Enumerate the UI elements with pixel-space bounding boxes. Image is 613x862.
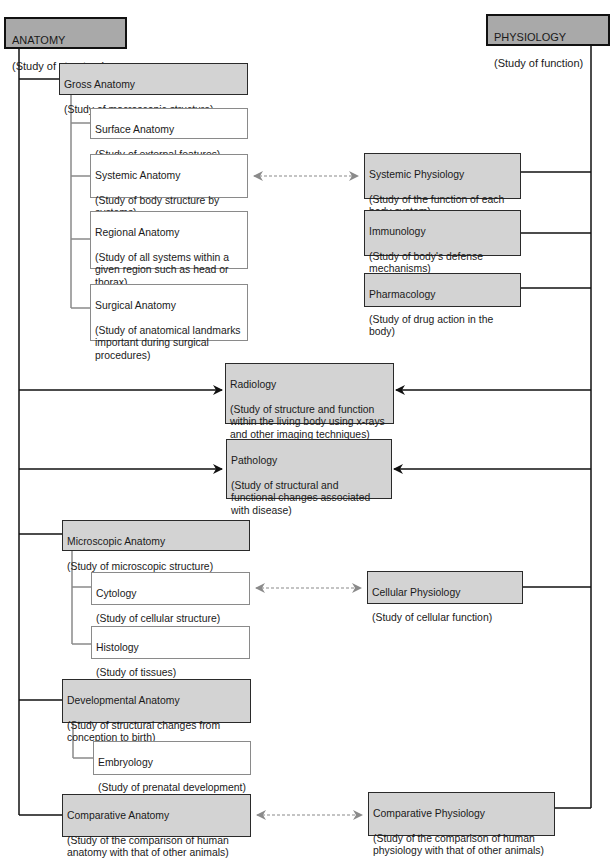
immunology-box: Immunology (Study of body's defense mech…	[364, 210, 521, 256]
microscopic-anatomy-box: Microscopic Anatomy (Study of microscopi…	[62, 520, 250, 551]
radiology-title: Radiology	[230, 379, 389, 392]
pharmacology-desc: (Study of drug action in the body)	[369, 314, 516, 339]
pharmacology-title: Pharmacology	[369, 289, 516, 302]
immunology-title: Immunology	[369, 226, 516, 239]
pharmacology-box: Pharmacology (Study of drug action in th…	[364, 273, 521, 307]
embryology-title: Embryology	[98, 757, 246, 770]
gross-anatomy-box: Gross Anatomy (Study of macroscopic stru…	[59, 63, 248, 95]
pathology-title: Pathology	[231, 455, 387, 468]
comparative-physiology-box: Comparative Physiology (Study of the com…	[368, 792, 555, 836]
histology-desc: (Study of tissues)	[96, 667, 245, 680]
surgical-anatomy-desc: (Study of anatomical landmarks important…	[95, 325, 243, 363]
comparative-physiology-title: Comparative Physiology	[373, 808, 550, 821]
pathology-desc: (Study of structural and functional chan…	[231, 480, 387, 518]
radiology-desc: (Study of structure and function within …	[230, 404, 389, 442]
systemic-physiology-title: Systemic Physiology	[369, 169, 516, 182]
regional-anatomy-title: Regional Anatomy	[95, 227, 243, 240]
comparative-anatomy-title: Comparative Anatomy	[67, 810, 246, 823]
comparative-physiology-desc: (Study of the comparison of human physio…	[373, 833, 550, 858]
cytology-box: Cytology (Study of cellular structure)	[91, 572, 250, 605]
embryology-desc: (Study of prenatal development)	[98, 782, 246, 795]
microscopic-anatomy-title: Microscopic Anatomy	[67, 536, 245, 549]
systemic-anatomy-title: Systemic Anatomy	[95, 170, 243, 183]
developmental-anatomy-box: Developmental Anatomy (Study of structur…	[62, 679, 251, 723]
histology-box: Histology (Study of tissues)	[91, 626, 250, 659]
cellular-physiology-box: Cellular Physiology (Study of cellular f…	[367, 571, 523, 604]
surgical-anatomy-title: Surgical Anatomy	[95, 300, 243, 313]
gross-anatomy-title: Gross Anatomy	[64, 79, 243, 92]
cellular-physiology-desc: (Study of cellular function)	[372, 612, 518, 625]
comparative-anatomy-box: Comparative Anatomy (Study of the compar…	[62, 794, 251, 837]
cytology-title: Cytology	[96, 588, 245, 601]
systemic-physiology-box: Systemic Physiology (Study of the functi…	[364, 153, 521, 199]
embryology-box: Embryology (Study of prenatal developmen…	[93, 741, 251, 775]
radiology-box: Radiology (Study of structure and functi…	[225, 363, 394, 424]
regional-anatomy-box: Regional Anatomy (Study of all systems w…	[90, 211, 248, 269]
cytology-desc: (Study of cellular structure)	[96, 613, 245, 626]
surgical-anatomy-box: Surgical Anatomy (Study of anatomical la…	[90, 284, 248, 341]
physiology-box: PHYSIOLOGY (Study of function)	[486, 14, 610, 46]
physiology-title: PHYSIOLOGY	[494, 31, 602, 44]
anatomy-box: ANATOMY (Study of structure)	[4, 17, 127, 49]
surface-anatomy-box: Surface Anatomy (Study of external featu…	[90, 108, 248, 139]
physiology-desc: (Study of function)	[494, 57, 602, 70]
pathology-box: Pathology (Study of structural and funct…	[226, 439, 392, 499]
developmental-anatomy-title: Developmental Anatomy	[67, 695, 246, 708]
surface-anatomy-title: Surface Anatomy	[95, 124, 243, 137]
cellular-physiology-title: Cellular Physiology	[372, 587, 518, 600]
systemic-anatomy-box: Systemic Anatomy (Study of body structur…	[90, 154, 248, 198]
anatomy-title: ANATOMY	[12, 34, 119, 47]
comparative-anatomy-desc: (Study of the comparison of human anatom…	[67, 835, 246, 860]
histology-title: Histology	[96, 642, 245, 655]
